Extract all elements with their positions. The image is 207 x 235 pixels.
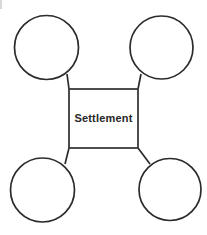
connector-top-left: [67, 74, 69, 89]
node-circle-bottom-left[interactable]: [11, 158, 75, 222]
node-circle-bottom-right[interactable]: [139, 159, 201, 221]
diagram-canvas: Settlement: [0, 0, 207, 235]
connector-bottom-left: [65, 148, 69, 164]
node-circle-top-left[interactable]: [15, 16, 79, 80]
center-node-rectangle[interactable]: [69, 89, 138, 148]
diagram-graphic: [0, 0, 207, 235]
node-circle-top-right[interactable]: [130, 16, 193, 79]
connector-top-right: [138, 74, 141, 89]
connector-bottom-right: [138, 148, 150, 164]
